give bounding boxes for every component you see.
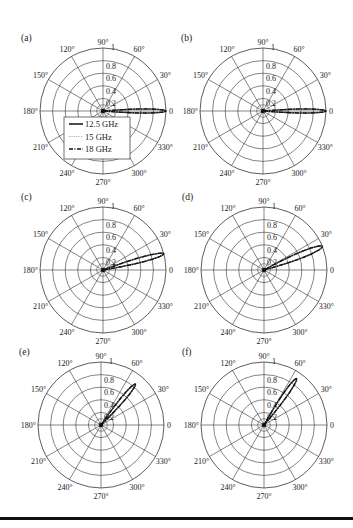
angle-tick-label: 300° xyxy=(129,483,144,492)
angle-tick-label: 180° xyxy=(184,266,199,275)
angle-tick-label: 210° xyxy=(194,457,209,466)
polar-panel-f: (f)030°60°90°120°150°180°210°240°270°300… xyxy=(182,347,334,501)
angle-tick-label: 330° xyxy=(158,302,173,311)
angle-tick-label: 60° xyxy=(293,45,304,54)
grid-spoke xyxy=(72,215,104,270)
angle-tick-label: 240° xyxy=(220,483,235,492)
angle-tick-label: 120° xyxy=(220,359,235,368)
polar-panel-e: (e)030°60°90°120°150°180°210°240°270°300… xyxy=(19,347,171,501)
grid-spoke xyxy=(263,111,295,166)
radial-tick-label: 0.6 xyxy=(106,74,116,83)
angle-tick-label: 330° xyxy=(319,302,334,311)
angle-tick-label: 120° xyxy=(59,45,74,54)
radial-tick-label: 1 xyxy=(271,43,275,52)
radial-tick-label: 0.6 xyxy=(266,74,276,83)
angle-tick-label: 300° xyxy=(292,483,307,492)
grid-spoke xyxy=(233,215,265,270)
polar-panel-d: (d)030°60°90°120°150°180°210°240°270°300… xyxy=(182,192,334,346)
radial-tick-label: 0.8 xyxy=(106,62,116,71)
angle-tick-label: 0 xyxy=(330,266,334,275)
grid-spoke xyxy=(233,270,265,325)
angle-tick-label: 30° xyxy=(158,385,169,394)
angle-tick-label: 240° xyxy=(220,328,235,337)
angle-tick-label: 120° xyxy=(57,359,72,368)
polar-panel-a: (a)030°60°90°120°150°180°210°240°270°300… xyxy=(21,33,173,187)
angle-tick-label: 300° xyxy=(292,328,307,337)
radial-tick-label: 0.4 xyxy=(267,246,277,255)
angle-tick-label: 90° xyxy=(258,352,269,361)
angle-tick-label: 210° xyxy=(193,143,208,152)
grid-spoke xyxy=(72,270,104,325)
panel-label: (f) xyxy=(182,347,192,358)
angle-tick-label: 150° xyxy=(31,385,46,394)
grid-spoke xyxy=(103,270,158,302)
angle-tick-label: 30° xyxy=(160,71,171,80)
radial-tick-label: 0.6 xyxy=(106,233,116,242)
radial-tick-label: 1 xyxy=(272,202,276,211)
angle-tick-label: 0 xyxy=(169,107,173,116)
angle-tick-label: 90° xyxy=(97,197,108,206)
radial-tick-label: 1 xyxy=(109,357,113,366)
angle-tick-label: 0 xyxy=(329,107,333,116)
radial-tick-label: 1 xyxy=(111,202,115,211)
grid-spoke xyxy=(264,270,319,302)
grid-spoke xyxy=(232,56,264,111)
radial-tick-label: 0.2 xyxy=(266,99,276,108)
angle-tick-label: 120° xyxy=(220,204,235,213)
grid-spoke xyxy=(264,270,296,325)
panel-label: (e) xyxy=(19,347,30,358)
grid-spoke xyxy=(101,425,133,480)
grid-spoke xyxy=(46,425,101,457)
radial-tick-label: 0.6 xyxy=(267,388,277,397)
angle-tick-label: 30° xyxy=(160,230,171,239)
radial-tick-label: 0.6 xyxy=(267,233,277,242)
angle-tick-label: 240° xyxy=(57,483,72,492)
radial-tick-label: 0.8 xyxy=(106,221,116,230)
angle-tick-label: 60° xyxy=(294,204,305,213)
angle-tick-label: 210° xyxy=(194,302,209,311)
radial-tick-label: 0.6 xyxy=(104,388,114,397)
angle-tick-label: 60° xyxy=(133,204,144,213)
polar-panel-b: (b)030°60°90°120°150°180°210°240°270°300… xyxy=(181,33,333,187)
angle-tick-label: 330° xyxy=(156,457,171,466)
angle-tick-label: 330° xyxy=(319,457,334,466)
grid-spoke xyxy=(209,394,264,426)
radial-tick-label: 0.8 xyxy=(267,376,277,385)
angle-tick-label: 150° xyxy=(194,385,209,394)
angle-tick-label: 270° xyxy=(256,337,271,346)
angle-tick-label: 330° xyxy=(158,143,173,152)
angle-tick-label: 240° xyxy=(219,169,234,178)
angle-tick-label: 270° xyxy=(256,492,271,501)
grid-spoke xyxy=(232,111,264,166)
polar-pattern-figure: (a)030°60°90°120°150°180°210°240°270°300… xyxy=(0,0,353,528)
angle-tick-label: 150° xyxy=(33,71,48,80)
grid-spoke xyxy=(70,370,102,425)
grid-spoke xyxy=(264,425,296,480)
radial-tick-label: 1 xyxy=(272,357,276,366)
radial-tick-label: 0.8 xyxy=(267,221,277,230)
grid-spoke xyxy=(72,56,104,111)
angle-tick-label: 0 xyxy=(330,421,334,430)
angle-tick-label: 180° xyxy=(23,107,38,116)
grid-spoke xyxy=(48,239,103,271)
angle-tick-label: 240° xyxy=(59,169,74,178)
angle-tick-label: 0 xyxy=(167,421,171,430)
angle-tick-label: 180° xyxy=(183,107,198,116)
radial-tick-label: 0.4 xyxy=(106,87,116,96)
radial-tick-label: 1 xyxy=(111,43,115,52)
panel-label: (a) xyxy=(21,33,32,44)
grid-spoke xyxy=(46,394,101,426)
bottom-rule xyxy=(0,517,353,520)
angle-tick-label: 60° xyxy=(294,359,305,368)
panel-label: (c) xyxy=(21,192,32,203)
angle-tick-label: 210° xyxy=(33,143,48,152)
angle-tick-label: 120° xyxy=(219,45,234,54)
radial-tick-label: 0.4 xyxy=(106,246,116,255)
grid-spoke xyxy=(233,370,265,425)
angle-tick-label: 300° xyxy=(291,169,306,178)
angle-tick-label: 270° xyxy=(95,178,110,187)
angle-tick-label: 60° xyxy=(133,45,144,54)
grid-spoke xyxy=(209,425,264,457)
angle-tick-label: 30° xyxy=(321,385,332,394)
grid-spoke xyxy=(208,111,263,143)
